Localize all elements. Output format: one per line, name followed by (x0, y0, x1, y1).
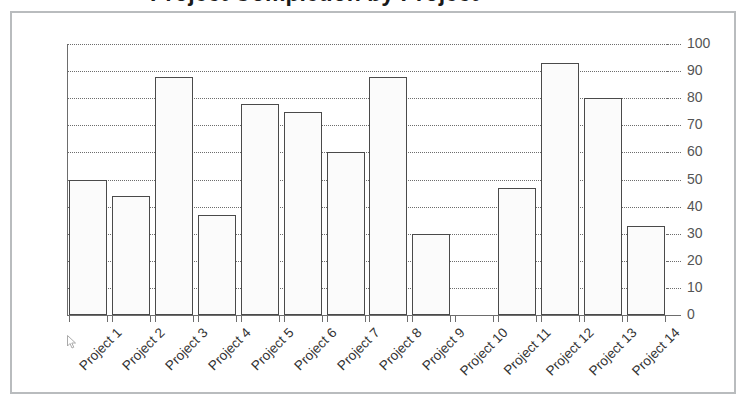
y-tick-label-80: 80 (687, 89, 703, 105)
y-tick-label-10: 10 (687, 279, 703, 295)
gridline-0 (67, 315, 667, 316)
x-tick-left-8 (369, 315, 370, 322)
y-tick-mark-40 (667, 207, 681, 208)
chart-frame: 1009080706050403020100 Project 1Project … (10, 11, 736, 394)
x-tick-right-8 (407, 315, 408, 322)
bar-8[interactable] (369, 77, 407, 315)
y-tick-mark-90 (667, 71, 681, 72)
y-tick-label-90: 90 (687, 62, 703, 78)
bar-1[interactable] (69, 180, 107, 316)
mouse-cursor-icon (67, 335, 77, 349)
x-tick-left-4 (198, 315, 199, 322)
x-tick-left-14 (627, 315, 628, 322)
x-tick-left-1 (69, 315, 70, 322)
x-tick-left-6 (284, 315, 285, 322)
y-tick-mark-80 (667, 98, 681, 99)
x-axis-category-labels: Project 1Project 2Project 3Project 4Proj… (67, 325, 687, 405)
chart-title: Project Completion by Project (150, 0, 478, 7)
x-tick-right-10 (493, 315, 494, 322)
y-tick-mark-30 (667, 234, 681, 235)
y-tick-label-100: 100 (687, 35, 710, 51)
x-tick-right-1 (107, 315, 108, 322)
y-tick-mark-50 (667, 180, 681, 181)
x-tick-left-5 (241, 315, 242, 322)
bar-series (67, 44, 667, 315)
x-tick-right-11 (536, 315, 537, 322)
y-tick-mark-70 (667, 125, 681, 126)
x-tick-right-7 (365, 315, 366, 322)
bar-12[interactable] (541, 63, 579, 315)
x-tick-left-11 (498, 315, 499, 322)
x-tick-right-6 (322, 315, 323, 322)
y-tick-label-60: 60 (687, 143, 703, 159)
x-tick-left-7 (327, 315, 328, 322)
y-tick-label-40: 40 (687, 198, 703, 214)
y-tick-label-70: 70 (687, 116, 703, 132)
x-tick-left-3 (155, 315, 156, 322)
x-tick-right-5 (279, 315, 280, 322)
plot-area: 1009080706050403020100 (67, 44, 667, 315)
x-tick-right-9 (450, 315, 451, 322)
x-tick-left-9 (412, 315, 413, 322)
bar-7[interactable] (327, 152, 365, 315)
y-tick-mark-100 (667, 44, 681, 45)
y-tick-label-20: 20 (687, 252, 703, 268)
x-tick-right-12 (579, 315, 580, 322)
y-tick-mark-20 (667, 261, 681, 262)
bar-6[interactable] (284, 112, 322, 315)
x-tick-left-2 (112, 315, 113, 322)
x-tick-left-13 (584, 315, 585, 322)
y-tick-mark-0 (667, 315, 681, 316)
bar-13[interactable] (584, 98, 622, 315)
y-tick-mark-60 (667, 152, 681, 153)
x-tick-right-3 (193, 315, 194, 322)
x-tick-right-14 (665, 315, 666, 322)
y-tick-label-50: 50 (687, 171, 703, 187)
x-tick-left-12 (541, 315, 542, 322)
bar-5[interactable] (241, 104, 279, 315)
y-tick-label-30: 30 (687, 225, 703, 241)
x-tick-left-10 (455, 315, 456, 322)
x-tick-right-2 (150, 315, 151, 322)
x-tick-right-4 (236, 315, 237, 322)
x-label-text-1: Project 1 (77, 325, 125, 373)
x-tick-right-13 (622, 315, 623, 322)
bar-3[interactable] (155, 77, 193, 315)
chart-title-sliver: Project Completion by Project Percent (0, 0, 748, 11)
